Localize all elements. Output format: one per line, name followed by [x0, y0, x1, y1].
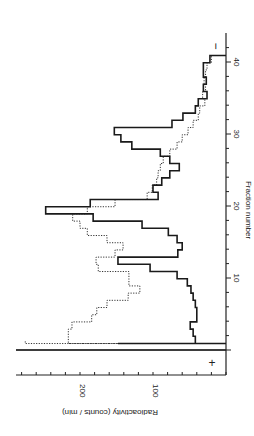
y-axis-title: Radioactivity (counts / min): [62, 408, 158, 417]
xtick-label-40: 40: [232, 58, 241, 67]
xtick-label-20: 20: [232, 202, 241, 211]
fraction-ticks: [226, 48, 231, 350]
xtick-label-10: 10: [232, 274, 241, 283]
x-axis-title: Fraction number: [244, 181, 253, 240]
ytick-label-200: 200: [78, 384, 87, 398]
xtick-label-30: 30: [232, 130, 241, 139]
plus-sign: +: [208, 356, 215, 370]
ytick-label-100: 100: [151, 384, 160, 398]
solid-series-line: [46, 56, 226, 344]
rotated-step-chart: 10 20 30 40 Fraction number 200 100 Radi…: [0, 0, 254, 436]
minus-sign: −: [209, 42, 223, 49]
